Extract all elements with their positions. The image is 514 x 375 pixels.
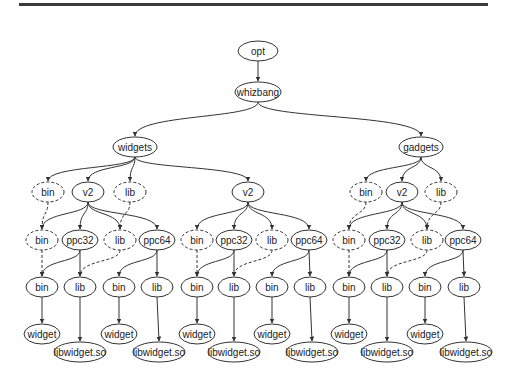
node-m_32lib: lib xyxy=(218,277,250,297)
node-label: ppc32 xyxy=(373,235,401,246)
node-whizbang: whizbang xyxy=(235,82,281,102)
node-label: bin xyxy=(190,235,203,246)
edge-gadgets-to-g_lib xyxy=(421,157,441,181)
edge-m_lib-to-m_32lib xyxy=(234,250,272,276)
node-label: bin xyxy=(342,235,355,246)
node-w_v2: v2 xyxy=(72,182,104,202)
nodes-layer: optwhizbangwidgetsgadgetsbinv2libbinppc3… xyxy=(24,41,493,362)
node-w_32lib: lib xyxy=(64,277,96,297)
node-g_v2: v2 xyxy=(386,182,418,202)
node-label: libwidget.so xyxy=(440,347,493,358)
node-label: lib xyxy=(152,282,162,293)
node-w_ppc64: ppc64 xyxy=(139,230,175,250)
edge-m_v2-to-m_bin xyxy=(197,202,248,229)
node-label: bin xyxy=(35,282,48,293)
edge-w_lib2-to-w_32lib xyxy=(80,250,120,276)
edge-gadgets-to-g_bin xyxy=(366,157,421,181)
node-w_bin: bin xyxy=(32,182,64,202)
node-label: ppc64 xyxy=(295,235,323,246)
node-label: bin xyxy=(41,187,54,198)
node-g_64bin: bin xyxy=(409,277,441,297)
node-label: libwidget.so xyxy=(361,347,414,358)
node-label: bin xyxy=(342,282,355,293)
node-label: libwidget.so xyxy=(208,347,261,358)
node-g_64widget: widget xyxy=(407,324,443,344)
node-label: v2 xyxy=(397,187,408,198)
node-w_64so: libwidget.so xyxy=(133,342,186,362)
node-g_32bin: bin xyxy=(333,277,365,297)
edge-g_ppc64-to-g_64bin xyxy=(425,250,463,276)
node-gadgets: gadgets xyxy=(399,137,443,157)
node-label: lib xyxy=(75,282,85,293)
edge-w_v2-to-w_ppc64 xyxy=(88,202,157,229)
node-g_ppc64: ppc64 xyxy=(445,230,481,250)
node-m_32so: libwidget.so xyxy=(208,342,261,362)
node-g_lib: lib xyxy=(425,182,457,202)
edge-m_64lib-to-m_64so xyxy=(310,297,312,341)
node-m_lib: lib xyxy=(256,230,288,250)
edge-whizbang-to-gadgets xyxy=(258,102,421,136)
node-label: lib xyxy=(436,187,446,198)
node-w_32widget: widget xyxy=(24,324,60,344)
node-label: widget xyxy=(104,329,134,340)
node-label: bin xyxy=(359,187,372,198)
node-m_32widget: widget xyxy=(179,324,215,344)
node-label: gadgets xyxy=(403,142,439,153)
edge-w_ppc64-to-w_64bin xyxy=(119,250,157,276)
directory-tree-diagram: optwhizbangwidgetsgadgetsbinv2libbinppc3… xyxy=(0,0,514,375)
node-g_32so: libwidget.so xyxy=(361,342,414,362)
node-label: bin xyxy=(35,235,48,246)
edge-g_v2-to-g_bin2 xyxy=(349,202,402,229)
node-w_lib: lib xyxy=(114,182,146,202)
node-w_32so: libwidget.so xyxy=(54,342,107,362)
node-label: lib xyxy=(382,282,392,293)
node-m_ppc32: ppc32 xyxy=(216,230,252,250)
edge-g_bin-to-g_bin2 xyxy=(349,202,366,229)
node-widgets: widgets xyxy=(113,137,157,157)
node-label: v2 xyxy=(243,187,254,198)
edge-g_ppc64-to-g_64lib xyxy=(463,250,464,276)
node-label: widgets xyxy=(117,142,152,153)
edge-w_ppc32-to-w_32bin xyxy=(42,250,80,276)
edge-g_v2-to-g_lib2 xyxy=(402,202,427,229)
edge-w_v2-to-w_lib2 xyxy=(88,202,120,229)
node-label: lib xyxy=(125,187,135,198)
node-label: ppc64 xyxy=(143,235,171,246)
node-label: widget xyxy=(334,329,364,340)
edge-g_64lib-to-g_64so xyxy=(464,297,466,341)
edge-widgets-to-w_v2 xyxy=(88,157,135,181)
edge-m_v2-to-m_ppc64 xyxy=(248,202,309,229)
node-label: libwidget.so xyxy=(54,347,107,358)
node-label: widget xyxy=(182,329,212,340)
edge-whizbang-to-widgets xyxy=(135,102,258,136)
edge-m_ppc64-to-m_64lib xyxy=(309,250,310,276)
node-w_64bin: bin xyxy=(103,277,135,297)
node-w_ppc32: ppc32 xyxy=(62,230,98,250)
node-label: widget xyxy=(27,329,57,340)
node-g_32lib: lib xyxy=(371,277,403,297)
node-w_64lib: lib xyxy=(141,277,173,297)
node-g_ppc32: ppc32 xyxy=(369,230,405,250)
node-label: opt xyxy=(251,46,265,57)
node-g_32widget: widget xyxy=(331,324,367,344)
node-label: lib xyxy=(459,282,469,293)
node-w_bin2: bin xyxy=(26,230,58,250)
node-label: libwidget.so xyxy=(286,347,339,358)
node-g_64lib: lib xyxy=(448,277,480,297)
node-label: libwidget.so xyxy=(133,347,186,358)
node-opt: opt xyxy=(238,41,278,61)
edge-g_lib2-to-g_32lib xyxy=(387,250,427,276)
node-m_ppc64: ppc64 xyxy=(291,230,327,250)
node-label: bin xyxy=(418,282,431,293)
node-g_bin: bin xyxy=(350,182,382,202)
node-label: bin xyxy=(190,282,203,293)
node-m_64so: libwidget.so xyxy=(286,342,339,362)
node-label: ppc32 xyxy=(66,235,94,246)
node-label: widget xyxy=(410,329,440,340)
node-w_32bin: bin xyxy=(26,277,58,297)
node-w_lib2: lib xyxy=(104,230,136,250)
node-label: lib xyxy=(267,235,277,246)
node-label: widget xyxy=(257,329,287,340)
node-label: ppc32 xyxy=(220,235,248,246)
node-label: bin xyxy=(112,282,125,293)
